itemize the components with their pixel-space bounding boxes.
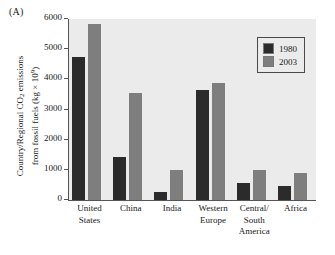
y-tick-label: 0 [58, 193, 63, 203]
bar-1980 [278, 186, 291, 200]
legend-swatch-2003 [263, 56, 274, 67]
legend-swatch-1980 [263, 43, 274, 54]
bar-1980 [113, 157, 126, 200]
legend-entry: 2003 [263, 55, 297, 68]
bar-2003 [253, 170, 266, 200]
y-tick-label: 5000 [44, 42, 62, 52]
y-axis-title-subscript: 2 [18, 94, 26, 98]
bar-1980 [154, 192, 167, 200]
y-axis-title-line1-pre: Country/Regional CO [15, 97, 25, 176]
bar-1980 [196, 90, 209, 200]
bar-1980 [237, 183, 250, 200]
bar-2003 [294, 173, 307, 200]
bar-2003 [212, 83, 225, 200]
bar-group [193, 19, 234, 200]
y-axis-title: Country/Regional CO2 emissions from foss… [15, 26, 41, 206]
legend-label-2003: 2003 [279, 57, 297, 67]
y-tick-label: 2000 [44, 133, 62, 143]
bar-group [69, 19, 110, 200]
y-axis-title-line1-post: emissions [15, 56, 25, 94]
panel-label: (A) [9, 6, 23, 18]
legend-entry: 1980 [263, 42, 297, 55]
y-tick-label: 4000 [44, 72, 62, 82]
y-tick-label: 3000 [44, 103, 62, 113]
legend-label-1980: 1980 [279, 44, 297, 54]
y-axis-title-line2-pre: from fossil fuels (kg × 10 [30, 73, 40, 165]
bar-2003 [129, 93, 142, 200]
y-axis-title-line2-post: ) [30, 67, 40, 70]
bar-group [110, 19, 151, 200]
bar-1980 [72, 57, 85, 200]
y-tick-label: 1000 [44, 163, 62, 173]
x-axis-labels: UnitedStatesChinaIndiaWesternEuropeCentr… [69, 203, 316, 253]
bar-group [151, 19, 192, 200]
bar-2003 [88, 24, 101, 200]
bar-2003 [170, 170, 183, 200]
y-tick-label: 6000 [44, 12, 62, 22]
y-axis-title-superscript: 9 [29, 70, 37, 74]
x-axis-label: Africa [269, 203, 322, 215]
figure-panel-a: (A) Country/Regional CO2 emissions from … [0, 0, 335, 255]
legend: 19802003 [257, 37, 305, 73]
